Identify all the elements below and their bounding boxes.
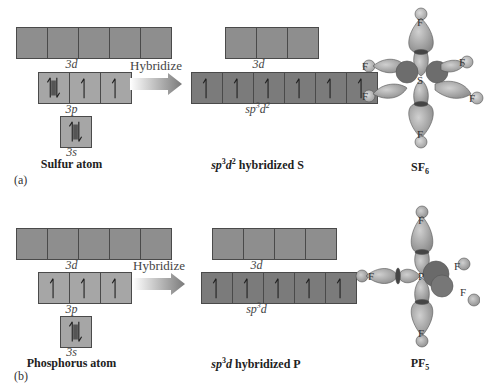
phosphorus-3p-label: 3p bbox=[38, 302, 105, 317]
orbital-box bbox=[284, 72, 316, 104]
f-label: F bbox=[460, 286, 466, 298]
hybridized-s-caption: sp3d2 hybridized S bbox=[191, 157, 324, 173]
sp3d-orbitals bbox=[201, 272, 357, 304]
spin-up-arrow-icon bbox=[264, 273, 294, 303]
orbital-box bbox=[274, 228, 306, 260]
f-label: F bbox=[454, 260, 460, 272]
central-atom-label: S bbox=[417, 74, 423, 86]
spin-up-arrow-icon bbox=[70, 273, 100, 303]
sf6-caption: SF6 bbox=[400, 160, 440, 176]
pf5-caption: PF5 bbox=[400, 356, 440, 372]
orbital-box bbox=[69, 72, 101, 104]
orbital-box bbox=[191, 72, 223, 104]
f-label: F bbox=[418, 327, 424, 339]
f-label: F bbox=[368, 270, 374, 282]
phosphorus-3d-label: 3d bbox=[16, 258, 127, 273]
orbital-box bbox=[287, 27, 319, 59]
spin-up-arrow-icon bbox=[39, 273, 69, 303]
orbital-box bbox=[212, 228, 244, 260]
orbital-box bbox=[222, 72, 254, 104]
f-label: F bbox=[417, 128, 423, 140]
orbital-box bbox=[47, 27, 79, 59]
central-atom-label: P bbox=[418, 270, 424, 282]
orbital-box bbox=[47, 228, 79, 260]
spin-up-arrow-icon bbox=[223, 73, 253, 103]
orbital-box bbox=[38, 72, 70, 104]
orbital-box bbox=[140, 27, 172, 59]
paired-spin-arrows-icon bbox=[61, 317, 91, 347]
spin-up-arrow-icon bbox=[316, 73, 346, 103]
f-atom-icon bbox=[468, 294, 480, 306]
spin-up-arrow-icon bbox=[192, 73, 222, 103]
sulfur-3p-label: 3p bbox=[38, 102, 105, 117]
spin-up-arrow-icon bbox=[202, 273, 232, 303]
spin-up-arrow-icon bbox=[101, 273, 131, 303]
orbital-box bbox=[78, 228, 110, 260]
sulfur-3d-orbitals bbox=[16, 27, 172, 59]
f-label: F bbox=[362, 60, 368, 72]
spin-up-arrow-icon bbox=[233, 273, 263, 303]
hybrid-p-3d-orbitals bbox=[212, 228, 337, 260]
hybrid-s-3d-orbitals bbox=[225, 27, 319, 59]
phosphorus-atom-caption: Phosphorus atom bbox=[10, 356, 133, 371]
sf6-molecule: F F F F F F S bbox=[355, 2, 485, 157]
panel-b-letter: (b) bbox=[14, 369, 28, 383]
spin-up-arrow-icon bbox=[70, 73, 100, 103]
orbital-box bbox=[315, 72, 347, 104]
orbital-box bbox=[305, 228, 337, 260]
orbital-box bbox=[225, 27, 257, 59]
orbital-box bbox=[38, 272, 70, 304]
phosphorus-3s-orbital bbox=[60, 316, 92, 348]
orbital-box bbox=[69, 272, 101, 304]
orbital-box bbox=[201, 272, 233, 304]
orbital-box bbox=[16, 228, 48, 260]
spin-up-arrow-icon bbox=[254, 73, 284, 103]
hybridize-arrow-icon bbox=[130, 73, 182, 95]
orbital-box bbox=[256, 27, 288, 59]
sulfur-atom-caption: Sulfur atom bbox=[16, 157, 127, 172]
orbital-box bbox=[78, 27, 110, 59]
spin-up-arrow-icon bbox=[285, 73, 315, 103]
f-label: F bbox=[362, 90, 368, 102]
f-label: F bbox=[459, 56, 465, 68]
sulfur-3p-orbitals bbox=[38, 72, 132, 104]
orbital-box bbox=[60, 316, 92, 348]
spin-up-arrow-icon bbox=[101, 73, 131, 103]
orbital-box bbox=[263, 272, 295, 304]
orbital-box bbox=[243, 228, 275, 260]
sp3d-label: sp3d bbox=[201, 301, 312, 317]
orbital-box bbox=[140, 228, 172, 260]
phosphorus-3d-orbitals bbox=[16, 228, 172, 260]
hybridized-p-caption: sp3d hybridized P bbox=[196, 356, 316, 372]
pf5-molecule: F F F F F P bbox=[350, 200, 480, 355]
hybridize-label: Hybridize bbox=[130, 58, 182, 74]
spin-up-arrow-icon bbox=[295, 273, 325, 303]
orbital-box bbox=[60, 116, 92, 148]
sp3d2-label: sp3d2 bbox=[191, 101, 324, 117]
hybrid-s-3d-label: 3d bbox=[225, 57, 292, 72]
orbital-box bbox=[100, 272, 132, 304]
f-label: F bbox=[417, 16, 423, 28]
f-label: F bbox=[418, 214, 424, 226]
orbital-box bbox=[253, 72, 285, 104]
phosphorus-3p-orbitals bbox=[38, 272, 132, 304]
orbital-box bbox=[109, 228, 141, 260]
panel-a-letter: (a) bbox=[14, 173, 27, 188]
f-label: F bbox=[469, 92, 475, 104]
orbital-box bbox=[100, 72, 132, 104]
hybrid-p-3d-label: 3d bbox=[212, 258, 301, 273]
orbital-box bbox=[16, 27, 48, 59]
sp3d2-orbitals bbox=[191, 72, 378, 104]
sulfur-3d-label: 3d bbox=[16, 57, 127, 72]
orbital-box bbox=[232, 272, 264, 304]
orbital-box bbox=[294, 272, 326, 304]
paired-spin-arrows-icon bbox=[39, 73, 69, 103]
hybridize-arrow-icon bbox=[133, 273, 185, 295]
hybridize-label: Hybridize bbox=[133, 258, 185, 274]
sulfur-3s-orbital bbox=[60, 116, 92, 148]
orbital-box bbox=[109, 27, 141, 59]
paired-spin-arrows-icon bbox=[61, 117, 91, 147]
